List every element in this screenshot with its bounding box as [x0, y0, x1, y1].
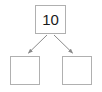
- arrow-to-right-part: [54, 35, 73, 53]
- whole-value: 10: [42, 12, 59, 27]
- whole-box[interactable]: 10: [35, 5, 66, 34]
- part-left-box[interactable]: [10, 56, 40, 85]
- part-right-box[interactable]: [62, 56, 92, 85]
- number-bond-diagram: 10: [0, 0, 102, 92]
- arrow-to-left-part: [29, 35, 48, 53]
